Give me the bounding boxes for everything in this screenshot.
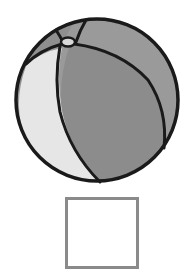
top-cap bbox=[61, 38, 75, 47]
answer-box[interactable] bbox=[65, 197, 139, 269]
beach-ball-image bbox=[0, 0, 192, 195]
